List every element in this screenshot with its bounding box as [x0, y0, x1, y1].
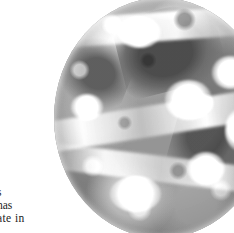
globe-disc-image: [54, 0, 234, 233]
body-text-column: s has ate in: [0, 186, 46, 225]
body-text-line-2: has: [0, 199, 46, 212]
satellite-globe-figure: [54, 0, 234, 233]
body-text-line-3: ate in: [0, 212, 46, 225]
body-text-line-1: s: [0, 186, 46, 199]
page-root: s has ate in: [0, 0, 234, 233]
storm-speckle-texture: [54, 0, 234, 233]
